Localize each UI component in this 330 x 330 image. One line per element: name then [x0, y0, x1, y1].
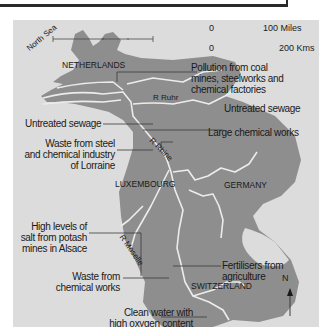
scale-kms-zero: 0: [209, 43, 214, 53]
scale-kms-label: 200 Kms: [279, 43, 315, 53]
annotation-sewage-ruhr: Untreated sewage: [224, 103, 300, 114]
annotation-clean-water: Clean water with high oxygen content: [93, 307, 193, 327]
country-netherlands: NETHERLANDS: [62, 60, 125, 70]
country-germany: GERMANY: [224, 180, 267, 190]
river-label-ruhr: R Ruhr: [153, 93, 178, 102]
annotation-sewage-left: Untreated sewage: [25, 118, 101, 129]
scale-miles-label: 100 Miles: [263, 23, 302, 33]
annotation-coal-pollution: Pollution from coal mines, steelworks an…: [191, 62, 284, 95]
frame-right-border: [286, 0, 288, 7]
country-luxembourg: LUXEMBOURG: [115, 179, 175, 189]
frame-top-border: [0, 4, 288, 7]
annotation-lorraine: Waste from steel and chemical industry o…: [23, 138, 115, 171]
annotation-chemical-waste: Waste from chemical works: [53, 271, 120, 293]
rhine-pollution-map: 0 100 Miles 0 200 Kms N North Sea NETHER…: [13, 20, 319, 327]
annotation-alsace-salt: High levels of salt from potash mines in…: [17, 221, 87, 254]
annotation-fertilisers: Fertilisers from agriculture: [222, 260, 283, 282]
country-switzerland: SWITZERLAND: [191, 281, 252, 291]
annotation-large-chemical-works: Large chemical works: [208, 127, 299, 138]
scale-miles-zero: 0: [209, 23, 214, 33]
